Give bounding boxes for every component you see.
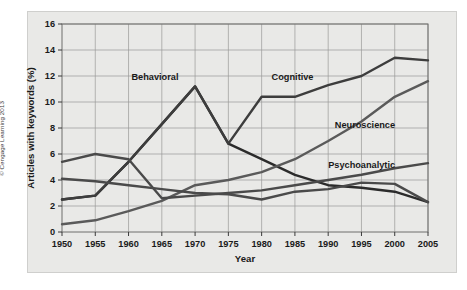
y-axis-tick-label: 16 [45, 19, 55, 29]
x-axis-tick-label: 1950 [52, 239, 72, 249]
x-axis-tick-label: 1985 [285, 239, 305, 249]
y-axis-tick-label: 10 [45, 97, 55, 107]
x-axis-tick-label: 2005 [418, 239, 438, 249]
y-axis-title: Articles with keywords (%) [25, 67, 36, 189]
x-axis-title: Year [235, 253, 256, 264]
x-axis: 1950195519601965197019751980198519901995… [52, 232, 438, 249]
y-axis-tick-label: 0 [50, 227, 55, 237]
y-axis: 0246810121416 [45, 19, 62, 237]
y-axis-tick-label: 8 [50, 123, 55, 133]
x-axis-tick-label: 1975 [218, 239, 238, 249]
x-axis-tick-label: 1980 [251, 239, 271, 249]
series-label-behavioral: Behavioral [131, 72, 178, 82]
x-axis-tick-label: 1965 [152, 239, 172, 249]
x-axis-tick-label: 2000 [385, 239, 405, 249]
y-axis-tick-label: 6 [50, 149, 55, 159]
y-axis-tick-label: 12 [45, 71, 55, 81]
series-label-cognitive: Cognitive [272, 72, 314, 82]
x-axis-tick-label: 1995 [351, 239, 371, 249]
y-axis-tick-label: 4 [50, 175, 56, 185]
x-axis-tick-label: 1970 [185, 239, 205, 249]
y-axis-tick-label: 14 [45, 45, 56, 55]
y-axis-tick-label: 2 [50, 201, 55, 211]
x-axis-tick-label: 1960 [118, 239, 138, 249]
line-chart: 0246810121416195019551960196519701975198… [0, 0, 467, 290]
series-label-psychoanalytic: Psychoanalytic [328, 160, 395, 170]
x-axis-tick-label: 1990 [318, 239, 338, 249]
figure: © Cengage Learning 2013 0246810121416195… [0, 0, 467, 290]
series-label-neuroscience: Neuroscience [335, 120, 395, 130]
x-axis-tick-label: 1955 [85, 239, 105, 249]
